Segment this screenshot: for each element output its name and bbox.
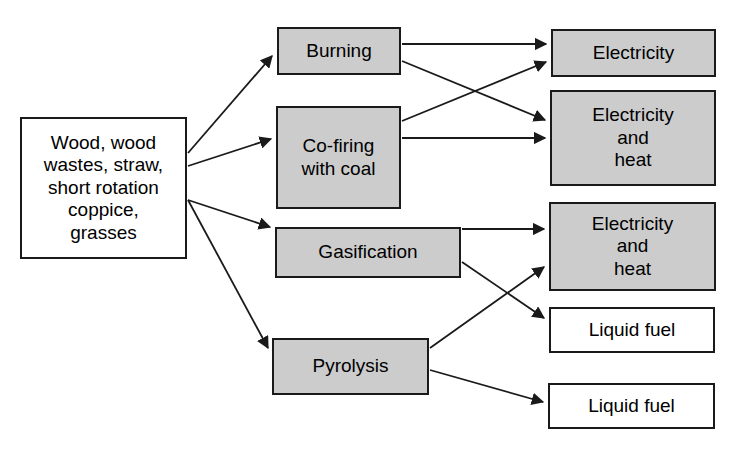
arrow-feedstock-to-cofiring bbox=[188, 139, 271, 166]
node-liquid-fuel-1[interactable]: Liquid fuel bbox=[549, 307, 715, 353]
node-label-feedstock: Wood, wood wastes, straw, short rotation… bbox=[40, 132, 167, 244]
arrow-pyrolysis-to-liquid-fuel-2 bbox=[430, 370, 543, 402]
node-label-pyrolysis: Pyrolysis bbox=[308, 355, 392, 377]
node-label-electricity: Electricity bbox=[589, 42, 678, 64]
node-burning[interactable]: Burning bbox=[277, 27, 401, 75]
node-gasification[interactable]: Gasification bbox=[275, 227, 461, 278]
arrow-burning-to-elec-heat-1 bbox=[402, 61, 545, 120]
node-label-liquid-fuel-2: Liquid fuel bbox=[584, 395, 679, 417]
node-label-burning: Burning bbox=[302, 40, 376, 62]
node-feedstock[interactable]: Wood, wood wastes, straw, short rotation… bbox=[20, 117, 187, 259]
node-pyrolysis[interactable]: Pyrolysis bbox=[272, 338, 429, 395]
node-label-gasification: Gasification bbox=[314, 241, 421, 263]
biomass-flow-diagram: Wood, wood wastes, straw, short rotation… bbox=[0, 0, 740, 450]
node-label-elec-heat-1: Electricity and heat bbox=[588, 104, 677, 171]
node-electricity[interactable]: Electricity bbox=[551, 29, 716, 77]
node-label-cofiring: Co-firing with coal bbox=[298, 135, 380, 180]
arrow-gasification-to-liquid-fuel-1 bbox=[462, 262, 544, 318]
node-label-elec-heat-2: Electricity and heat bbox=[588, 213, 677, 280]
node-liquid-fuel-2[interactable]: Liquid fuel bbox=[548, 383, 715, 429]
node-label-liquid-fuel-1: Liquid fuel bbox=[585, 319, 680, 341]
node-elec-heat-2[interactable]: Electricity and heat bbox=[549, 202, 716, 291]
node-elec-heat-1[interactable]: Electricity and heat bbox=[550, 90, 716, 186]
node-cofiring[interactable]: Co-firing with coal bbox=[276, 106, 401, 209]
arrow-feedstock-to-burning bbox=[188, 56, 272, 153]
